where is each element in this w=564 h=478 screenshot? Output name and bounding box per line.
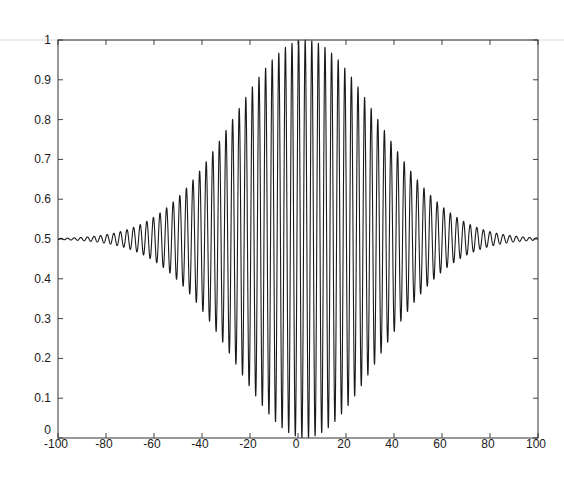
y-tick-label: 0.6 xyxy=(34,192,51,206)
y-tick-label: 0.8 xyxy=(34,113,51,127)
y-tick-label: 0.9 xyxy=(34,73,51,87)
x-tick-label: 100 xyxy=(526,437,546,451)
y-tick-label: 0.1 xyxy=(34,391,51,405)
x-axis: -100-80-60-40-20020406080100 xyxy=(44,40,546,451)
x-tick-label: 0 xyxy=(293,437,300,451)
x-tick-label: -80 xyxy=(95,437,113,451)
x-tick-label: 20 xyxy=(337,437,351,451)
y-tick-label: 1 xyxy=(44,33,51,47)
x-tick-label: -100 xyxy=(44,437,68,451)
chart-canvas: 00.10.20.30.40.50.60.70.80.91 -100-80-60… xyxy=(0,0,564,478)
x-tick-label: 80 xyxy=(481,437,495,451)
y-tick-label: 0.5 xyxy=(34,232,51,246)
y-tick-label: 0.7 xyxy=(34,152,51,166)
x-tick-label: 60 xyxy=(433,437,447,451)
y-tick-label: 0.4 xyxy=(34,272,51,286)
signal-line xyxy=(58,40,538,437)
x-tick-label: -60 xyxy=(143,437,161,451)
x-tick-label: -40 xyxy=(191,437,209,451)
y-tick-label: 0 xyxy=(44,423,51,437)
x-tick-label: 40 xyxy=(385,437,399,451)
x-tick-label: -20 xyxy=(239,437,257,451)
y-tick-label: 0.2 xyxy=(34,351,51,365)
y-tick-label: 0.3 xyxy=(34,312,51,326)
